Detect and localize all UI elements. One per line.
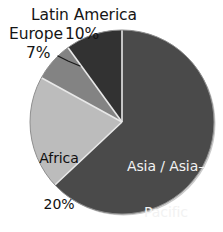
pie-chart-figure: Latin America 10% Europe 7% Africa 20% A… xyxy=(0,0,223,232)
label-asia-pacific-group: Asia / Asia– Pacific 63% xyxy=(124,129,208,232)
label-africa-percent: 20% xyxy=(27,197,91,212)
chart-plot-area: Latin America 10% Europe 7% Africa 20% A… xyxy=(0,0,223,232)
label-africa: Africa xyxy=(27,151,91,166)
label-africa-group: Africa 20% xyxy=(27,121,91,232)
label-europe: Europe xyxy=(9,26,63,43)
label-asia-pacific-line2: Pacific xyxy=(124,205,208,220)
label-asia-pacific-line1: Asia / Asia– xyxy=(124,159,208,174)
label-europe-percent: 7% xyxy=(26,45,50,62)
label-latin-america-percent: 10% xyxy=(65,26,99,43)
label-latin-america: Latin America xyxy=(31,7,137,24)
